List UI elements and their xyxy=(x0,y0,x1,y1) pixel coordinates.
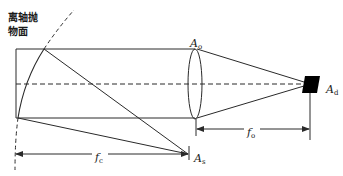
ray-lens-bottom-to-detector xyxy=(197,86,304,118)
label-source-aperture: As xyxy=(194,149,206,166)
parabolic-mirror-dashed-bottom xyxy=(15,118,18,170)
label-focal-objective: fo xyxy=(247,123,255,140)
label-aperture-objective: Ao xyxy=(190,34,202,51)
mirror-label-line1: 离轴抛 xyxy=(8,12,38,24)
ray-lens-top-to-detector xyxy=(197,49,304,82)
label-detector: Ad xyxy=(326,80,338,97)
optical-system-diagram xyxy=(0,0,343,176)
mirror-label-line2: 物面 xyxy=(8,26,28,38)
detector xyxy=(302,76,320,93)
parabolic-mirror-dashed-top xyxy=(44,10,74,49)
label-focal-collimator: fc xyxy=(95,148,103,165)
